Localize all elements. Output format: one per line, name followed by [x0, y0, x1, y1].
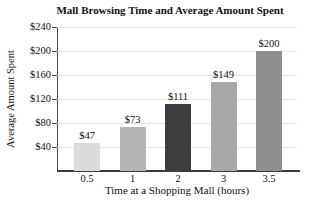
y-axis-tick: [52, 51, 57, 52]
y-axis-tick: [52, 147, 57, 148]
x-tick-label: 3.5: [244, 173, 294, 184]
x-tick-label: 1: [108, 173, 158, 184]
x-tick-label: 3: [199, 173, 249, 184]
bar: [74, 143, 100, 171]
y-axis-tick: [52, 75, 57, 76]
bar-value-label: $47: [62, 130, 112, 141]
bar-chart-figure: Mall Browsing Time and Average Amount Sp…: [0, 0, 309, 200]
gridline: [57, 27, 297, 28]
y-axis-tick: [52, 27, 57, 28]
y-tick-label: $160: [0, 69, 51, 80]
plot-area: $47$73$111$149$200: [57, 27, 297, 171]
y-tick-label: $40: [0, 141, 51, 152]
x-tick-label: 0.5: [62, 173, 112, 184]
y-tick-label: $240: [0, 21, 51, 32]
bar: [211, 82, 237, 171]
bar: [120, 127, 146, 171]
bar-value-label: $111: [153, 91, 203, 102]
bar-value-label: $73: [108, 114, 158, 125]
bar-value-label: $149: [199, 69, 249, 80]
y-tick-label: $80: [0, 117, 51, 128]
bar-value-label: $200: [244, 38, 294, 49]
y-tick-label: $120: [0, 93, 51, 104]
x-tick-label: 2: [153, 173, 203, 184]
x-axis-title: Time at a Shopping Mall (hours): [57, 184, 297, 196]
y-axis-tick: [52, 123, 57, 124]
y-tick-label: $200: [0, 45, 51, 56]
bar: [256, 51, 282, 171]
bar: [165, 104, 191, 171]
y-axis-tick: [52, 99, 57, 100]
